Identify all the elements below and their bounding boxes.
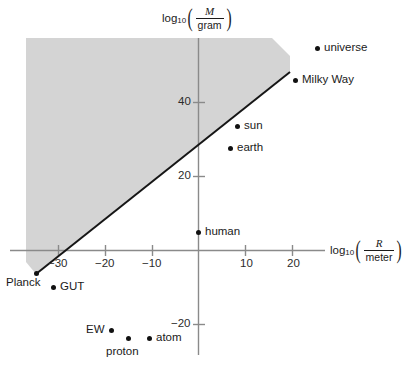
data-point-human [196,230,201,235]
y-tick-label-40: 40 [178,96,191,108]
data-point-earth [228,146,233,151]
data-label-planck: Planck [6,277,41,289]
data-point-milky-way [293,78,298,83]
data-point-gut [51,285,56,290]
x-axis-title: log10 ( R meter ) [330,238,404,263]
data-point-atom [147,336,152,341]
data-label-gut: GUT [60,281,84,293]
data-label-atom: atom [156,332,182,344]
y-axis-denominator: gram [196,19,224,31]
y-axis-title: log10 ( M gram ) [162,6,233,31]
data-label-ew: EW [86,324,105,336]
forbidden-region-shading [26,38,290,274]
y-axis-fraction: M gram [196,6,224,31]
plot-canvas [0,0,406,373]
x-tick-label-10: 10 [240,258,253,270]
y-axis-numerator: M [203,6,216,18]
data-point-proton [126,336,131,341]
data-label-earth: earth [237,142,263,154]
x-tick-label-minus20: −20 [95,258,115,270]
data-label-milky-way: Milky Way [302,74,354,86]
x-axis-log-subscript: 10 [345,249,354,257]
y-axis-log-text: log [162,13,177,25]
data-point-sun [235,124,240,129]
y-axis-log-subscript: 10 [177,17,186,25]
mass-radius-scatter-figure: log10 ( M gram ) log10 ( R meter ) −30 −… [0,0,406,373]
data-label-universe: universe [324,42,367,54]
data-label-proton: proton [106,346,139,358]
y-tick-label-minus20: −20 [171,318,191,330]
x-axis-numerator: R [374,238,385,250]
x-axis-fraction: R meter [364,238,395,263]
x-axis-denominator: meter [364,251,395,263]
data-label-sun: sun [244,120,263,132]
data-point-ew [109,328,114,333]
x-tick-label-minus30: −30 [48,258,68,270]
x-axis-log-text: log [330,245,345,257]
x-tick-label-20: 20 [287,258,300,270]
y-tick-label-20: 20 [178,170,191,182]
data-point-universe [315,46,320,51]
data-label-human: human [205,226,240,238]
x-tick-label-minus10: −10 [142,258,162,270]
